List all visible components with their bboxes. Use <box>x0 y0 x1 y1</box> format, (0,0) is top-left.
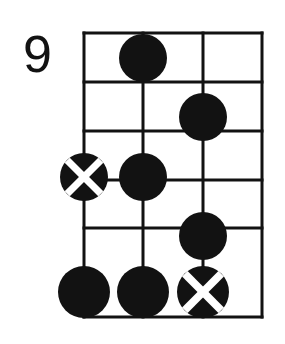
dot-circle <box>58 266 110 318</box>
dot-circle <box>179 93 227 141</box>
grid-lines <box>84 33 262 317</box>
fretboard-grid <box>0 0 285 344</box>
marker-filled-dot-s3-f2 <box>179 93 227 141</box>
chord-diagram: 9 <box>0 0 285 344</box>
marker-filled-dot-s2-f5 <box>117 266 169 318</box>
marker-filled-dot-s1-f5 <box>58 266 110 318</box>
dot-circle <box>119 153 167 201</box>
dot-circle <box>117 266 169 318</box>
dot-circle <box>119 34 167 82</box>
marker-cross-dot-s1-f3 <box>60 153 108 201</box>
marker-filled-dot-s2-f1 <box>119 34 167 82</box>
marker-cross-dot-s3-f5 <box>177 266 229 318</box>
marker-filled-dot-s3-f4 <box>179 212 227 260</box>
marker-filled-dot-s2-f3 <box>119 153 167 201</box>
dot-circle <box>179 212 227 260</box>
